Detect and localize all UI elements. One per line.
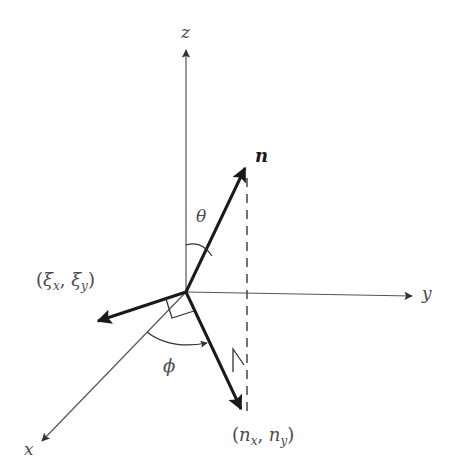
theta-label: θ	[196, 206, 206, 226]
y-axis-label: y	[421, 283, 432, 303]
right-angle-marker-projection	[233, 349, 244, 372]
xi-vector-label: (ξx, ξy)	[36, 269, 95, 293]
n-projection-label: (nx, ny)	[232, 424, 294, 448]
x-axis-label: x	[24, 439, 34, 459]
y-axis	[186, 292, 412, 296]
phi-label: ϕ	[163, 355, 175, 376]
coordinate-diagram: z y x n θ ϕ (ξx, ξy) (nx, ny)	[0, 0, 457, 474]
phi-arc	[147, 332, 207, 345]
n-vector	[186, 168, 245, 292]
z-axis-label: z	[180, 22, 191, 42]
n-vector-label: n	[255, 145, 268, 166]
